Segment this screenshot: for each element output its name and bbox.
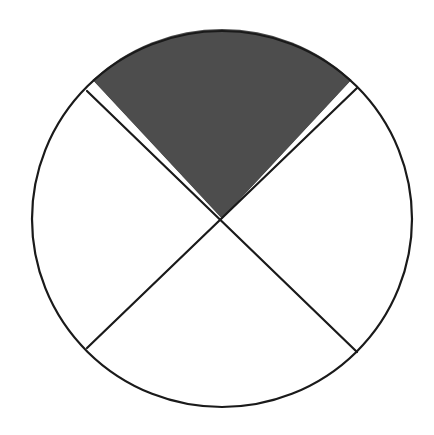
circle-sector-figure: Circle divided into four sectors with on…	[0, 0, 434, 435]
